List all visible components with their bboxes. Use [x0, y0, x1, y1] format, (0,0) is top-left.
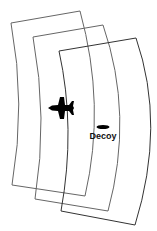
wavefront-panel-1 — [11, 11, 94, 196]
wavefront-panel-2 — [33, 25, 120, 211]
fighter-jet-icon — [48, 97, 74, 119]
decoy-ellipse-icon — [97, 125, 110, 129]
decoy-label: Decoy — [89, 131, 116, 141]
diagram-canvas: Decoy — [0, 0, 157, 231]
